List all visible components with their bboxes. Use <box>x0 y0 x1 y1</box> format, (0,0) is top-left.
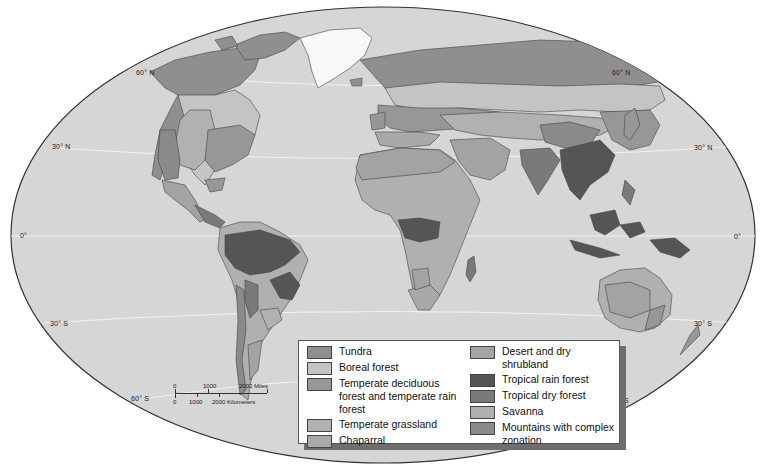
scale-km-2000: 2000 Kilometers <box>212 399 255 405</box>
swatch-desert <box>470 346 495 359</box>
legend-label: Chaparral <box>339 434 385 447</box>
legend-item-tundra: Tundra <box>307 345 467 359</box>
scale-km-1000: 1000 <box>189 399 202 405</box>
legend-label: Temperate deciduous forest and temperate… <box>339 377 467 416</box>
latitude-label-eq-left: 0° <box>20 232 27 239</box>
scale-km-0: 0 <box>173 399 176 405</box>
legend-column-right: Desert and dry shrubland Tropical rain f… <box>470 345 615 449</box>
scale-tick <box>219 393 220 397</box>
legend-item-savanna: Savanna <box>470 405 615 419</box>
latitude-label-60n-left: 60° N <box>136 69 155 76</box>
swatch-chaparral <box>307 435 332 448</box>
latitude-label-30n-right: 30° N <box>694 144 713 151</box>
legend-label: Tropical dry forest <box>502 389 586 402</box>
legend-label: Savanna <box>502 405 543 418</box>
legend-label: Mountains with complex zonation <box>502 421 615 447</box>
scale-miles-1000: 1000 <box>203 383 216 389</box>
legend-item-boreal-forest: Boreal forest <box>307 361 467 375</box>
latitude-label-60n-right: 60° N <box>612 69 631 76</box>
legend-item-chaparral: Chaparral <box>307 434 467 448</box>
legend-item-mountains: Mountains with complex zonation <box>470 421 615 447</box>
swatch-savanna <box>470 406 495 419</box>
swatch-temperate-deciduous-forest <box>307 378 332 391</box>
latitude-label-30s-left: 30° S <box>50 320 68 327</box>
legend-label: Boreal forest <box>339 361 399 374</box>
legend-item-tropical-dry-forest: Tropical dry forest <box>470 389 615 403</box>
scale-miles-2000: 2000 Miles <box>239 383 268 389</box>
legend-item-temperate-grassland: Temperate grassland <box>307 418 467 432</box>
swatch-temperate-grassland <box>307 419 332 432</box>
latitude-label-30n-left: 30° N <box>52 143 71 150</box>
legend-item-tropical-rain-forest: Tropical rain forest <box>470 373 615 387</box>
scale-tick <box>208 389 209 393</box>
legend-label: Tropical rain forest <box>502 373 589 386</box>
scale-line <box>175 393 267 394</box>
scale-bar: 0 1000 2000 Miles 0 1000 2000 Kilometers <box>170 383 280 413</box>
swatch-tropical-rain-forest <box>470 374 495 387</box>
scale-tick <box>267 389 268 393</box>
latitude-label-30s-right: 30° S <box>694 320 712 327</box>
scale-tick <box>175 389 176 398</box>
swatch-tundra <box>307 346 332 359</box>
legend-item-desert: Desert and dry shrubland <box>470 345 615 371</box>
swatch-boreal-forest <box>307 362 332 375</box>
swatch-mountains <box>470 422 495 435</box>
legend-label: Desert and dry shrubland <box>502 345 615 371</box>
legend-item-temperate-deciduous-forest: Temperate deciduous forest and temperate… <box>307 377 467 416</box>
latitude-label-eq-right: 0° <box>734 233 741 240</box>
legend-label: Tundra <box>339 345 372 358</box>
swatch-tropical-dry-forest <box>470 390 495 403</box>
legend-column-left: Tundra Boreal forest Temperate deciduous… <box>307 345 467 450</box>
scale-tick <box>197 393 198 397</box>
legend-label: Temperate grassland <box>339 418 437 431</box>
latitude-label-60s-left: 60° S <box>131 395 149 402</box>
biome-legend: Tundra Boreal forest Temperate deciduous… <box>298 340 620 444</box>
